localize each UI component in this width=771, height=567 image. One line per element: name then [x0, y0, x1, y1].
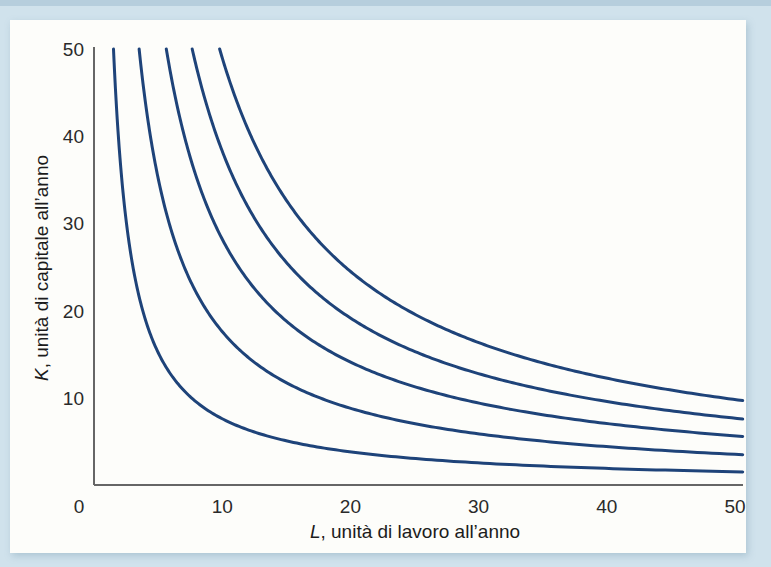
y-tick-label-10: 10 [63, 388, 84, 409]
x-tick-label-40: 40 [596, 496, 617, 517]
ticks-layer: 010203040501020304050 [63, 39, 746, 517]
y-tick-label-30: 30 [63, 213, 84, 234]
y-tick-label-50: 50 [63, 39, 84, 60]
isoquant-curve-4 [192, 49, 742, 419]
curves-layer [113, 49, 742, 472]
x-tick-label-50: 50 [724, 496, 745, 517]
page-top-shade [0, 0, 771, 6]
y-axis-label: K, unità di capitale all’anno [31, 155, 52, 381]
x-tick-label-0: 0 [74, 496, 85, 517]
y-tick-label-40: 40 [63, 126, 84, 147]
isoquant-chart: 010203040501020304050 L, unità di lavoro… [10, 20, 746, 553]
x-tick-label-30: 30 [468, 496, 489, 517]
axes-layer [94, 47, 743, 485]
x-tick-label-20: 20 [340, 496, 361, 517]
chart-panel: 010203040501020304050 L, unità di lavoro… [10, 20, 746, 553]
y-tick-label-20: 20 [63, 301, 84, 322]
isoquant-curve-3 [166, 49, 742, 436]
x-tick-label-10: 10 [212, 496, 233, 517]
x-axis-label: L, unità di lavoro all’anno [310, 521, 520, 542]
isoquant-curve-5 [220, 49, 743, 401]
